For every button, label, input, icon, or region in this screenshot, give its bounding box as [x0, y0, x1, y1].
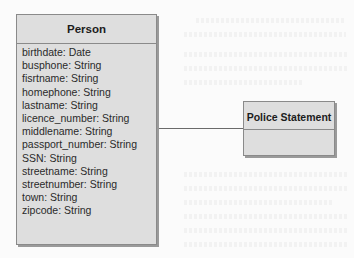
attribute-busphone: busphone: String	[22, 59, 156, 72]
attribute-streetnumber: streetnumber: String	[22, 178, 156, 191]
class-name-police-statement: Police Statement	[244, 102, 334, 130]
attribute-birthdate: birthdate: Date	[22, 46, 156, 59]
attribute-licence-number: licence_number: String	[22, 112, 156, 125]
attribute-homephone: homephone: String	[22, 86, 156, 99]
attribute-streetname: streetname: String	[22, 165, 156, 178]
attribute-ssn: SSN: String	[22, 152, 156, 165]
attribute-firstname: fisrtname: String	[22, 72, 156, 85]
attribute-lastname: lastname: String	[22, 99, 156, 112]
attribute-zipcode: zipcode: String	[22, 204, 156, 217]
association-line-person-police-statement	[157, 128, 243, 129]
attribute-middlename: middlename: String	[22, 125, 156, 138]
attribute-list-person: birthdate: Date busphone: String fisrtna…	[17, 44, 156, 217]
class-name-person: Person	[17, 15, 156, 44]
attribute-passport-number: passport_number: String	[22, 138, 156, 151]
class-box-police-statement[interactable]: Police Statement	[243, 101, 335, 156]
class-box-person[interactable]: Person birthdate: Date busphone: String …	[16, 14, 157, 245]
attribute-town: town: String	[22, 191, 156, 204]
